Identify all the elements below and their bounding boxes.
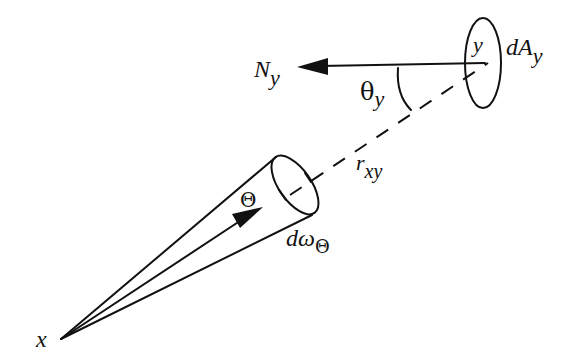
label-point-y: y: [471, 32, 483, 57]
label-direction: Θ: [240, 188, 256, 212]
radiance-geometry-diagram: x Ny y dAy θy rxy Θ dωΘ: [0, 0, 585, 359]
background: [0, 0, 585, 359]
label-x: x: [35, 326, 47, 352]
